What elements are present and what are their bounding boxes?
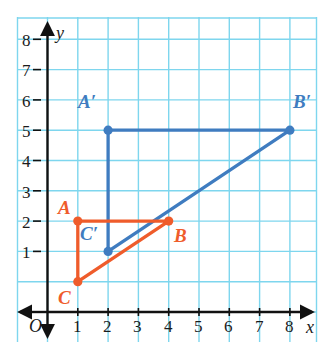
y-tick-5: 5 bbox=[22, 123, 31, 140]
y-tick-3: 3 bbox=[22, 184, 31, 201]
point-label-C-prime: C′ bbox=[80, 224, 98, 243]
plot-canvas bbox=[0, 0, 331, 342]
y-tick-4: 4 bbox=[22, 153, 31, 170]
y-axis-label: y bbox=[56, 24, 64, 42]
y-tick-1: 1 bbox=[22, 244, 31, 261]
point-label-C: C bbox=[58, 288, 71, 307]
x-tick-7: 7 bbox=[255, 318, 264, 335]
vertex-B-prime bbox=[285, 126, 294, 135]
vertex-C-prime bbox=[104, 247, 113, 256]
point-label-A: A bbox=[58, 198, 71, 217]
x-tick-4: 4 bbox=[164, 318, 173, 335]
x-tick-8: 8 bbox=[285, 318, 294, 335]
x-axis-label: x bbox=[306, 318, 314, 336]
x-tick-6: 6 bbox=[224, 318, 233, 335]
x-tick-1: 1 bbox=[73, 318, 82, 335]
vertex-A-prime bbox=[104, 126, 113, 135]
point-label-A-prime: A′ bbox=[78, 92, 96, 111]
y-tick-7: 7 bbox=[22, 62, 31, 79]
vertex-C bbox=[73, 277, 82, 286]
x-tick-3: 3 bbox=[133, 318, 142, 335]
origin-label: O bbox=[29, 317, 42, 335]
coordinate-plane-figure: 8 7 6 5 4 3 2 1 1 2 3 4 5 6 7 8 y x O A … bbox=[0, 0, 331, 342]
y-tick-8: 8 bbox=[22, 32, 31, 49]
x-tick-5: 5 bbox=[194, 318, 203, 335]
point-label-B: B bbox=[174, 226, 187, 245]
x-tick-2: 2 bbox=[103, 318, 112, 335]
y-tick-2: 2 bbox=[22, 214, 31, 231]
y-tick-6: 6 bbox=[22, 93, 31, 110]
point-label-B-prime: B′ bbox=[293, 92, 311, 111]
vertex-B bbox=[164, 217, 173, 226]
